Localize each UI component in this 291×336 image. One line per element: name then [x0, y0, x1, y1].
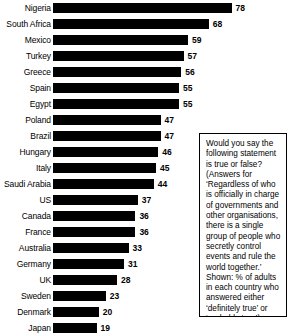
bar-and-value: 55 [53, 80, 192, 96]
value-label: 36 [139, 211, 148, 221]
value-label: 44 [158, 179, 167, 189]
category-label: Denmark [0, 307, 53, 317]
value-label: 55 [183, 99, 192, 109]
category-label: Japan [0, 323, 53, 333]
category-label: Greece [0, 67, 53, 77]
bar-and-value: 28 [53, 272, 131, 288]
bar-and-value: 19 [53, 320, 110, 336]
bar-row: Nigeria78 [0, 0, 291, 16]
value-label: 68 [213, 19, 222, 29]
category-label: Sweden [0, 291, 53, 301]
value-label: 46 [162, 147, 171, 157]
value-label: 33 [133, 243, 142, 253]
category-label: France [0, 227, 53, 237]
bar [53, 99, 179, 109]
category-label: US [0, 195, 53, 205]
value-label: 56 [185, 67, 194, 77]
bar [53, 163, 156, 173]
value-label: 78 [236, 3, 245, 13]
value-label: 47 [165, 115, 174, 125]
bar [53, 131, 161, 141]
bar [53, 51, 184, 61]
bar [53, 35, 188, 45]
chart-note-box: Would you say the following statement is… [199, 133, 287, 317]
bar-row: Japan19 [0, 320, 291, 336]
value-label: 19 [101, 323, 110, 333]
bar-and-value: 36 [53, 208, 149, 224]
bar-and-value: 44 [53, 176, 167, 192]
bar [53, 83, 179, 93]
category-label: Germany [0, 259, 53, 269]
category-label: Hungary [0, 147, 53, 157]
value-label: 37 [142, 195, 151, 205]
bar [53, 323, 97, 333]
value-label: 55 [183, 83, 192, 93]
value-label: 20 [103, 307, 112, 317]
bar-and-value: 78 [53, 0, 245, 16]
bar [53, 179, 154, 189]
bar-row: Spain55 [0, 80, 291, 96]
category-label: Saudi Arabia [0, 179, 53, 189]
category-label: UK [0, 275, 53, 285]
bar-row: Greece56 [0, 64, 291, 80]
value-label: 45 [160, 163, 169, 173]
bar [53, 147, 158, 157]
bar-and-value: 55 [53, 96, 192, 112]
bar-and-value: 23 [53, 288, 119, 304]
category-label: Spain [0, 83, 53, 93]
value-label: 47 [165, 131, 174, 141]
bar [53, 227, 135, 237]
category-label: Poland [0, 115, 53, 125]
bar [53, 307, 99, 317]
category-label: Italy [0, 163, 53, 173]
bar [53, 243, 129, 253]
bar-and-value: 37 [53, 192, 151, 208]
bar [53, 291, 106, 301]
bar [53, 211, 135, 221]
category-label: Canada [0, 211, 53, 221]
bar-row: Egypt55 [0, 96, 291, 112]
category-label: Mexico [0, 35, 53, 45]
category-label: Turkey [0, 51, 53, 61]
value-label: 36 [139, 227, 148, 237]
value-label: 28 [121, 275, 130, 285]
bar-and-value: 31 [53, 256, 137, 272]
bar [53, 195, 138, 205]
value-label: 57 [188, 51, 197, 61]
bar-and-value: 57 [53, 48, 197, 64]
bar-and-value: 46 [53, 144, 172, 160]
bar [53, 115, 161, 125]
bar-and-value: 33 [53, 240, 142, 256]
bar [53, 275, 117, 285]
bar [53, 259, 124, 269]
category-label: Brazil [0, 131, 53, 141]
bar-and-value: 36 [53, 224, 149, 240]
bar-and-value: 47 [53, 112, 174, 128]
bar [53, 19, 209, 29]
category-label: South Africa [0, 19, 53, 29]
bar [53, 67, 181, 77]
value-label: 23 [110, 291, 119, 301]
value-label: 59 [192, 35, 201, 45]
bar-and-value: 59 [53, 32, 202, 48]
bar [53, 3, 232, 13]
chart-note-text: Would you say the following statement is… [206, 139, 281, 317]
bar-row: Poland47 [0, 112, 291, 128]
bar-and-value: 68 [53, 16, 222, 32]
bar-and-value: 47 [53, 128, 174, 144]
bar-row: South Africa68 [0, 16, 291, 32]
value-label: 31 [128, 259, 137, 269]
bar-and-value: 20 [53, 304, 112, 320]
bar-row: Turkey57 [0, 48, 291, 64]
bar-row: Mexico59 [0, 32, 291, 48]
bar-and-value: 45 [53, 160, 169, 176]
category-label: Egypt [0, 99, 53, 109]
category-label: Australia [0, 243, 53, 253]
category-label: Nigeria [0, 3, 53, 13]
bar-and-value: 56 [53, 64, 195, 80]
